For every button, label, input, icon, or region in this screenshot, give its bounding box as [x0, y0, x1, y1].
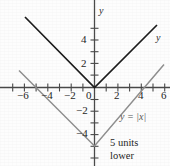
- y-tick-label-2: 2: [81, 58, 87, 69]
- x-tick-label-neg4: −4: [41, 90, 53, 101]
- y-tick-label-4: 4: [81, 34, 87, 45]
- graph-figure: y y −6 −4 −2 0 2 4 6 4 2 −2 −4 y = |x| 5…: [0, 0, 170, 166]
- shifted-curve-equation-label: y = |x|: [120, 112, 146, 122]
- parent-curve-end-label: y: [156, 33, 160, 43]
- x-tick-label-6: 6: [161, 90, 167, 101]
- annotation-note-line1: 5 units: [110, 138, 138, 149]
- y-tick-label-neg2: −2: [76, 105, 88, 116]
- shifted-curve-equation-lhs: y =: [120, 111, 134, 122]
- curve-abs-x-shifted-down: [19, 65, 164, 147]
- x-tick-label-4: 4: [138, 90, 144, 101]
- x-tick-label-zero: 0: [86, 90, 92, 101]
- coordinate-plane-svg: [0, 0, 170, 166]
- annotation-note-line2: lower: [110, 151, 134, 162]
- y-tick-label-neg4: −4: [76, 128, 88, 139]
- x-tick-label-neg2: −2: [64, 90, 76, 101]
- x-tick-label-neg6: −6: [17, 90, 29, 101]
- y-axis-label: y: [99, 6, 103, 16]
- shifted-curve-equation-rhs: |x|: [136, 111, 146, 122]
- x-tick-label-2: 2: [114, 90, 120, 101]
